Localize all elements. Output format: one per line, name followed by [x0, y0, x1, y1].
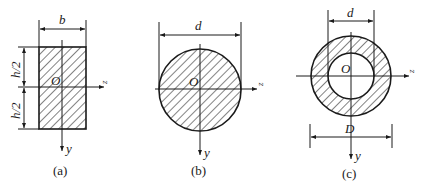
- label-z-axis: z: [99, 80, 109, 85]
- label-origin: O: [189, 74, 199, 89]
- panel-c-hollow-circle-section: d D z y O (c): [296, 5, 416, 181]
- cross-section-figure: b h/2 h/2 z y O (a) d z y O (b): [0, 0, 422, 187]
- label-z-axis: z: [255, 82, 265, 87]
- label-D: D: [344, 121, 355, 136]
- caption-b: (b): [191, 163, 206, 178]
- label-z-axis: z: [406, 69, 416, 74]
- label-origin: O: [341, 61, 351, 76]
- label-h-half-bottom: h/2: [8, 102, 23, 119]
- label-d: d: [195, 18, 202, 33]
- panel-a-rectangle-section: b h/2 h/2 z y O (a): [8, 12, 109, 178]
- panel-b-circle-section: d z y O (b): [155, 18, 265, 178]
- label-origin: O: [51, 73, 61, 88]
- label-h-half-top: h/2: [8, 61, 23, 78]
- caption-c: (c): [342, 166, 356, 181]
- label-d: d: [347, 5, 354, 20]
- label-y-axis: y: [64, 141, 72, 156]
- label-y-axis: y: [353, 148, 361, 163]
- caption-a: (a): [53, 163, 67, 178]
- label-y-axis: y: [202, 145, 210, 160]
- label-b: b: [59, 12, 66, 27]
